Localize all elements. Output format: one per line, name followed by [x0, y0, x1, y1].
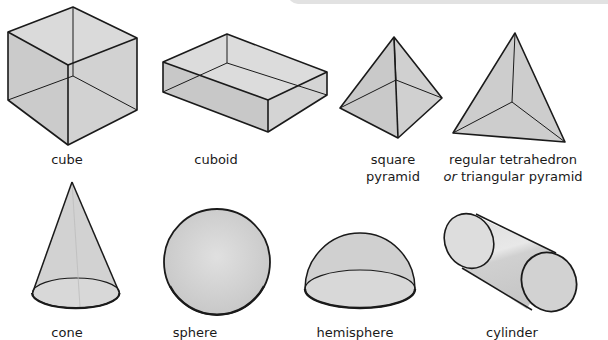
cube-shape	[8, 7, 137, 145]
cuboid-shape	[163, 34, 327, 132]
cone-shape	[32, 182, 120, 308]
label-square-pyramid-line1: square	[366, 151, 420, 168]
sphere-shape	[164, 209, 270, 315]
tetrahedron-shape	[453, 33, 565, 142]
label-tetrahedron-line1: regular tetrahedron	[443, 151, 582, 168]
square-pyramid-shape	[340, 37, 442, 138]
label-cube: cube	[51, 151, 83, 168]
label-cone: cone	[51, 324, 82, 340]
label-square-pyramid: square pyramid	[366, 151, 420, 185]
label-cylinder: cylinder	[486, 324, 538, 340]
label-tetrahedron-line2: or triangular pyramid	[443, 168, 582, 185]
label-hemisphere: hemisphere	[317, 324, 394, 340]
label-tetrahedron-line2-rest: triangular pyramid	[457, 169, 583, 184]
hemisphere-shape	[305, 233, 415, 308]
cylinder-shape	[435, 205, 586, 320]
label-square-pyramid-line2: pyramid	[366, 168, 420, 185]
label-tetrahedron-or: or	[443, 169, 456, 184]
label-tetrahedron: regular tetrahedron or triangular pyrami…	[443, 151, 582, 185]
label-sphere: sphere	[173, 324, 217, 340]
label-cuboid: cuboid	[194, 151, 237, 168]
